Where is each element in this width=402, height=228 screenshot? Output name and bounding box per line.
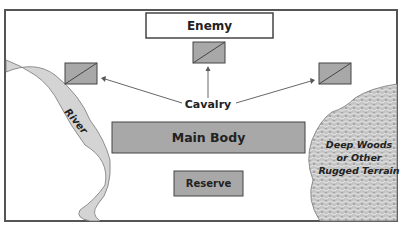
terrain-label-line3: Rugged Terrain: [318, 165, 399, 176]
battle-formation-diagram: River Deep Woods or Other Rugged Terrain…: [0, 0, 402, 228]
reserve-label: Reserve: [186, 178, 232, 189]
terrain-label-line1: Deep Woods: [326, 139, 393, 150]
cavalry-unit-left: [65, 63, 97, 84]
cavalry-unit-right: [319, 63, 351, 84]
cavalry-unit-center: [193, 42, 225, 63]
enemy-label: Enemy: [187, 19, 232, 33]
main-body-label: Main Body: [172, 130, 246, 145]
cavalry-label: Cavalry: [185, 98, 231, 111]
terrain-label-line2: or Other: [336, 152, 382, 163]
